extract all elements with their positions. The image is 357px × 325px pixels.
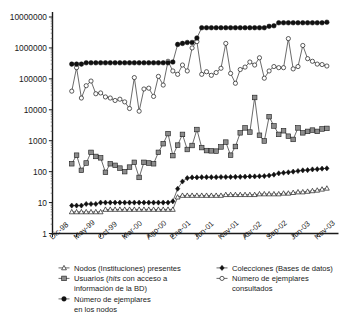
marker-circle-open: [108, 96, 112, 100]
marker-circle-open: [267, 69, 271, 73]
marker-square-gray: [272, 124, 277, 129]
marker-hex-solid: [262, 25, 267, 30]
marker-square-gray: [171, 153, 176, 158]
marker-hex-solid: [185, 40, 190, 45]
marker-hex-solid: [146, 61, 151, 66]
marker-square-gray: [310, 128, 315, 133]
marker-hex-solid: [137, 61, 142, 66]
marker-circle-open: [176, 72, 180, 76]
legend-entry[interactable]: Colecciones (Bases de datos): [217, 264, 334, 273]
marker-circle-open: [127, 106, 131, 110]
marker-circle-open: [248, 60, 252, 64]
marker-square-gray: [315, 129, 320, 134]
marker-hex-solid: [272, 23, 277, 28]
marker-hex-solid: [180, 41, 185, 46]
legend-label-line2: información de la BD): [74, 284, 147, 293]
marker-square-gray: [98, 156, 103, 161]
marker-square-gray: [238, 131, 243, 136]
marker-hex-solid: [98, 61, 103, 66]
marker-circle-open: [315, 62, 319, 66]
marker-hex-solid: [228, 25, 233, 30]
marker-square-gray: [228, 153, 233, 158]
marker-square-gray: [209, 149, 214, 154]
marker-hex-solid: [69, 62, 74, 67]
y-tick-label: 100: [33, 167, 47, 177]
marker-hex-solid: [325, 20, 330, 25]
legend-label-line2: consultados: [232, 284, 273, 293]
marker-square-gray: [190, 143, 195, 148]
marker-hex-solid: [118, 61, 123, 66]
marker-hex-solid: [243, 25, 248, 30]
marker-hex-solid: [166, 61, 171, 66]
marker-hex-solid: [223, 25, 228, 30]
marker-circle-open: [200, 72, 204, 76]
marker-circle-open: [219, 66, 223, 70]
marker-square-gray: [118, 166, 123, 171]
marker-circle-open: [99, 91, 103, 95]
marker-circle-open: [151, 94, 155, 98]
marker-hex-solid: [310, 20, 315, 25]
marker-circle-open: [306, 57, 310, 61]
marker-hex-solid: [252, 25, 257, 30]
marker-hex-solid: [320, 20, 325, 25]
marker-circle-open: [272, 64, 276, 68]
marker-hex-solid: [257, 25, 262, 30]
marker-circle-open: [147, 86, 151, 90]
marker-hex-solid: [94, 61, 99, 66]
marker-square-gray: [223, 140, 228, 145]
y-tick-label: 100000: [19, 74, 47, 84]
y-tick-label: 1000: [28, 136, 47, 146]
marker-hex-solid: [113, 61, 118, 66]
marker-hex-solid: [122, 61, 127, 66]
marker-square-gray: [151, 161, 156, 166]
marker-square-gray: [74, 153, 79, 158]
marker-circle-open: [310, 59, 314, 63]
y-tick-label: 1000000: [14, 43, 47, 53]
marker-circle-open: [89, 79, 93, 83]
marker-circle-open: [243, 65, 247, 69]
marker-hex-solid: [161, 61, 166, 66]
marker-hex-solid: [248, 25, 253, 30]
marker-square-gray: [69, 161, 74, 166]
marker-square-gray: [113, 163, 118, 168]
marker-circle-open: [118, 97, 122, 101]
marker-square-gray: [219, 145, 224, 150]
marker-hex-solid: [195, 36, 200, 41]
marker-circle-open: [301, 43, 305, 47]
marker-square-gray: [305, 129, 310, 134]
marker-square-gray: [248, 130, 253, 135]
marker-square-gray: [195, 127, 200, 132]
marker-square-gray: [166, 131, 171, 136]
marker-square-gray: [301, 131, 306, 136]
marker-circle-open: [229, 71, 233, 75]
marker-square-gray: [185, 147, 190, 152]
marker-square-gray: [161, 141, 166, 146]
marker-square-gray: [276, 132, 281, 137]
marker-hex-solid: [103, 61, 108, 66]
marker-hex-solid: [281, 20, 286, 25]
marker-hex-solid: [219, 25, 224, 30]
marker-circle-open: [214, 70, 218, 74]
y-tick-label: 10000000: [10, 12, 48, 22]
marker-hex-solid: [291, 20, 296, 25]
marker-circle-open: [224, 41, 228, 45]
legend-entry[interactable]: Nodos (Instituciones) presentes: [59, 264, 181, 273]
marker-square-gray: [122, 169, 127, 174]
marker-square-gray: [156, 150, 161, 155]
marker-hex-solid: [301, 20, 306, 25]
legend-label: Número de ejemplares: [74, 295, 151, 304]
marker-circle-open: [70, 89, 74, 93]
legend-label: Usuarios (hits con acceso a: [74, 274, 168, 283]
marker-square-gray: [62, 276, 67, 281]
marker-square-gray: [127, 165, 132, 170]
y-tick-label: 10000: [24, 105, 48, 115]
marker-square-gray: [180, 132, 185, 137]
marker-hex-solid: [151, 61, 156, 66]
marker-square-gray: [320, 127, 325, 132]
marker-circle-open: [291, 67, 295, 71]
marker-circle-open: [204, 70, 208, 74]
marker-hex-solid: [305, 20, 310, 25]
marker-square-gray: [325, 126, 330, 131]
marker-circle-open: [209, 73, 213, 77]
marker-circle-open: [137, 109, 141, 113]
